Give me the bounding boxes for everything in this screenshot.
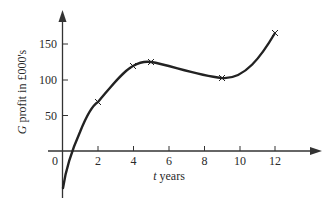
x-ticks	[98, 146, 275, 151]
y-ticks	[63, 44, 69, 116]
x-tick-label: 10	[234, 154, 246, 168]
x-axis-arrow-icon	[310, 147, 322, 155]
y-axis-label: G profit in £000's	[15, 49, 29, 134]
y-tick-label: 100	[39, 73, 57, 87]
cross-marker-icon	[95, 99, 101, 105]
x-axis-label: t years	[153, 169, 185, 183]
x-tick-label: 8	[202, 154, 208, 168]
y-axis-arrow-icon	[59, 10, 67, 22]
x-tick-label: 0	[52, 154, 58, 168]
y-tick-label: 50	[45, 109, 57, 123]
x-tick-label: 4	[131, 154, 137, 168]
x-tick-label: 2	[95, 154, 101, 168]
chart: 150 100 50 0 2 4 6 8 10 12 t years G pro…	[0, 0, 336, 210]
x-tick-label: 6	[166, 154, 172, 168]
x-tick-label: 12	[269, 154, 281, 168]
y-tick-label: 150	[39, 37, 57, 51]
